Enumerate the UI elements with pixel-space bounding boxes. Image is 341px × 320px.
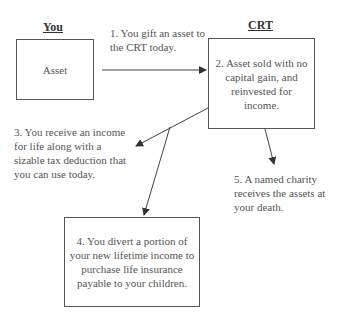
arrows — [0, 0, 341, 320]
arrow-charity — [265, 129, 274, 164]
arrow-income — [136, 108, 208, 146]
